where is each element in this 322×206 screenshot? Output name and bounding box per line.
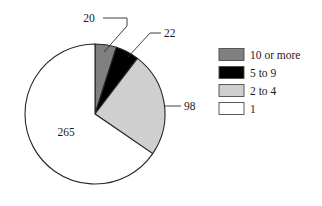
legend-label-2-to-4: 2 to 4 (250, 85, 276, 97)
value-label-1: 265 (57, 126, 75, 138)
legend-swatch-5-to-9 (219, 67, 244, 79)
legend-item-1[interactable]: 1 (219, 103, 256, 115)
value-label-2-to-4: 98 (184, 100, 196, 112)
value-label-10-or-more: 20 (83, 12, 95, 24)
legend-swatch-2-to-4 (219, 85, 244, 97)
legend-item-5-to-9[interactable]: 5 to 9 (219, 67, 276, 79)
legend-label-1: 1 (250, 103, 256, 115)
legend-swatch-1 (219, 103, 244, 115)
pie-chart-svg: 20 22 98 265 10 or more 5 to 9 2 to 4 1 (0, 0, 322, 206)
legend-swatch-10-or-more (219, 49, 244, 61)
legend-label-5-to-9: 5 to 9 (250, 67, 276, 79)
chart-legend: 10 or more 5 to 9 2 to 4 1 (219, 49, 300, 115)
pie-chart-figure: 20 22 98 265 10 or more 5 to 9 2 to 4 1 (0, 0, 322, 206)
legend-item-2-to-4[interactable]: 2 to 4 (219, 85, 276, 97)
leader-line-22 (128, 33, 161, 57)
legend-item-10-or-more[interactable]: 10 or more (219, 49, 300, 61)
pie-slices (25, 44, 165, 184)
value-label-5-to-9: 22 (164, 27, 176, 39)
legend-label-10-or-more: 10 or more (250, 49, 300, 61)
